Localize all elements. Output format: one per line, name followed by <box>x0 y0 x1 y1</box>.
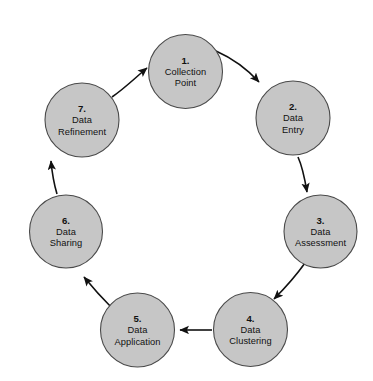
arrow-2-to-3 <box>298 157 307 192</box>
diagram-canvas <box>0 0 373 381</box>
node-circle-collection-point[interactable] <box>149 35 223 109</box>
node-circle-data-sharing[interactable] <box>30 195 103 268</box>
node-circle-data-refinement[interactable] <box>45 83 119 157</box>
arrow-6-to-7 <box>51 161 57 194</box>
node-circle-data-assessment[interactable] <box>284 195 357 268</box>
node-circle-data-application[interactable] <box>101 293 175 367</box>
cycle-diagram: 1. Collection Point 2. Data Entry 3. Dat… <box>0 0 373 381</box>
arrow-7-to-1 <box>112 68 147 97</box>
node-circle-data-clustering[interactable] <box>214 293 288 367</box>
node-circle-data-entry[interactable] <box>256 81 330 155</box>
arrow-5-to-6 <box>84 277 112 308</box>
arrow-3-to-4 <box>274 263 305 299</box>
node-layer <box>30 35 358 368</box>
